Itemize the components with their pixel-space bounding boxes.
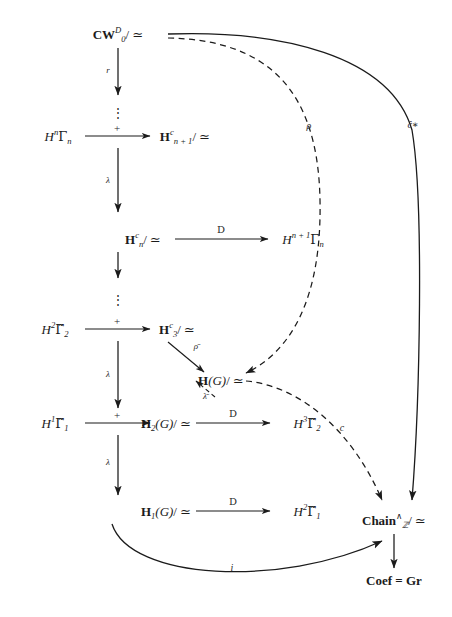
label-frakD-3: D bbox=[229, 497, 237, 507]
label-lambda-2: λ bbox=[106, 370, 110, 379]
node-h-g: H(G)/ ≃ bbox=[198, 374, 244, 387]
node-cw-tail: / ≃ bbox=[126, 27, 144, 42]
src-h1-base: H bbox=[41, 416, 50, 431]
node-h2-gamma1: H2Γ̃1 bbox=[293, 505, 320, 518]
node-h3-base: H bbox=[159, 322, 169, 337]
label-rho-bar: ρ̄ bbox=[194, 342, 198, 351]
node-h1g-tail: / ≃ bbox=[173, 504, 191, 519]
node-cw: CWD0/ ≃ bbox=[93, 28, 144, 41]
node-h2g-arg: (G) bbox=[155, 416, 173, 431]
node-h1-g: H1(G)/ ≃ bbox=[141, 505, 191, 518]
node-hn1-sub: n + 1 bbox=[174, 136, 193, 146]
vdots-2: ⋮ bbox=[112, 294, 124, 306]
label-c: c bbox=[340, 423, 344, 433]
label-r: r bbox=[106, 66, 110, 75]
node-h2-gamma2: H2Γ̃2 bbox=[41, 323, 68, 336]
node-hg-tail: / ≃ bbox=[226, 373, 244, 388]
src-hn-sub: n bbox=[67, 136, 71, 146]
label-i: i bbox=[231, 563, 234, 573]
curve-c bbox=[246, 381, 382, 500]
tgt-h2-sub: 1 bbox=[316, 511, 320, 521]
node-h3-tail: / ≃ bbox=[177, 322, 195, 337]
node-cw-base: CW bbox=[93, 27, 115, 42]
label-lambda-3: λ bbox=[106, 458, 110, 467]
src-h2-base: H bbox=[41, 322, 50, 337]
tgt-h3-gamma: Γ̃ bbox=[307, 416, 316, 431]
node-coef-text: Coef = Gr bbox=[366, 573, 422, 588]
tgt-h3-sub: 2 bbox=[316, 423, 320, 433]
node-hn-tail: / ≃ bbox=[143, 232, 161, 247]
tgt-h3-base: H bbox=[293, 416, 302, 431]
node-hn-gamma-n: HnΓn bbox=[44, 130, 71, 143]
node-chain: Chain∧ℤ/ ≃ bbox=[362, 514, 426, 527]
node-hn1-gamma-n: Hn + 1Γn bbox=[282, 233, 323, 246]
node-chain-base: Chain bbox=[362, 513, 396, 528]
label-lambda-1: λ bbox=[106, 176, 110, 185]
tgt-hn1-base: H bbox=[282, 232, 291, 247]
node-h1-gamma1: H1Γ̃1 bbox=[41, 417, 68, 430]
node-hn1-base: H bbox=[160, 129, 170, 144]
node-hg-arg: (G) bbox=[208, 373, 226, 388]
tgt-h2-base: H bbox=[293, 504, 302, 519]
label-frakD-1: D bbox=[217, 225, 225, 235]
label-frakD-2: D bbox=[229, 409, 237, 419]
tgt-h2-gamma: Γ̃ bbox=[307, 504, 316, 519]
node-coef-gr: Coef = Gr bbox=[366, 574, 422, 587]
vdots-1: ⋮ bbox=[112, 107, 124, 119]
commutative-diagram: H^c_{n+1} --> C bbox=[0, 0, 452, 617]
tgt-hn1-sup: n + 1 bbox=[292, 230, 311, 240]
node-h2g-tail: / ≃ bbox=[173, 416, 191, 431]
node-hn1-tail: / ≃ bbox=[192, 129, 210, 144]
node-chain-tail: / ≃ bbox=[408, 513, 426, 528]
label-rho: ρ bbox=[307, 121, 312, 131]
node-h2g-base: H bbox=[141, 416, 151, 431]
src-h2-gamma: Γ̃ bbox=[55, 322, 64, 337]
node-hg-base: H bbox=[198, 373, 208, 388]
node-h3-gamma2: H3Γ̃2 bbox=[293, 417, 320, 430]
tgt-hn1-sub: n bbox=[319, 239, 323, 249]
src-hn-base: H bbox=[44, 129, 53, 144]
label-c-hat-star: ĉ∗ bbox=[407, 120, 418, 130]
src-hn-gamma: Γ bbox=[58, 129, 67, 144]
node-hn-base: H bbox=[125, 232, 135, 247]
node-hc-n: Hcn/ ≃ bbox=[125, 233, 161, 246]
label-plus-2: + bbox=[114, 316, 120, 327]
node-h1g-base: H bbox=[141, 504, 151, 519]
node-h1g-arg: (G) bbox=[155, 504, 173, 519]
src-h1-sub: 1 bbox=[64, 423, 68, 433]
label-plus-3: + bbox=[114, 410, 120, 421]
label-plus-1: + bbox=[114, 123, 120, 134]
label-lambda-bar: λ̄ bbox=[203, 392, 207, 401]
node-hc-n-plus-1: Hcn + 1/ ≃ bbox=[160, 130, 210, 143]
tgt-hn1-gamma: Γ bbox=[310, 232, 319, 247]
curve-i bbox=[112, 524, 382, 572]
src-h1-gamma: Γ̃ bbox=[55, 416, 64, 431]
node-hc-3: Hc3/ ≃ bbox=[159, 323, 195, 336]
src-h2-sub: 2 bbox=[64, 329, 68, 339]
arrow-rho-bar bbox=[168, 342, 204, 372]
node-h2-g: H2(G)/ ≃ bbox=[141, 417, 191, 430]
